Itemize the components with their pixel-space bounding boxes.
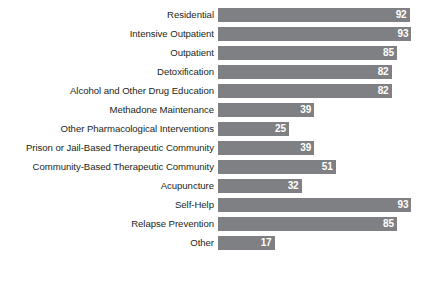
bar-value-label: 82	[378, 65, 389, 79]
chart-row: Alcohol and Other Drug Education82	[0, 84, 424, 103]
chart-row: Acupuncture32	[0, 179, 424, 198]
bar-track: 93	[218, 27, 424, 41]
bar-track: 39	[218, 103, 424, 117]
bar: 85	[218, 217, 397, 231]
chart-row: Community-Based Therapeutic Community51	[0, 160, 424, 179]
bar-value-label: 17	[261, 236, 272, 250]
bar-value-label: 82	[378, 84, 389, 98]
bar-category-label: Other	[190, 236, 214, 250]
bar-track: 17	[218, 236, 424, 250]
bar: 85	[218, 46, 397, 60]
bar-category-label: Other Pharmacological Interventions	[61, 122, 214, 136]
bar-track: 85	[218, 217, 424, 231]
bar-value-label: 39	[300, 141, 311, 155]
chart-row: Relapse Prevention85	[0, 217, 424, 236]
bar-track: 39	[218, 141, 424, 155]
bar-chart: Residential92Intensive Outpatient93Outpa…	[0, 0, 424, 284]
bar-category-label: Outpatient	[170, 46, 214, 60]
bar-category-label: Community-Based Therapeutic Community	[33, 160, 214, 174]
chart-row: Other Pharmacological Interventions25	[0, 122, 424, 141]
bar-track: 92	[218, 8, 424, 22]
chart-row: Detoxification82	[0, 65, 424, 84]
bar-track: 32	[218, 179, 424, 193]
bar-track: 82	[218, 84, 424, 98]
bar-value-label: 25	[275, 122, 286, 136]
bar-category-label: Residential	[167, 8, 214, 22]
cropped-title-text	[0, 0, 424, 4]
chart-row: Other17	[0, 236, 424, 255]
cropped-footer-text	[0, 276, 424, 284]
bar: 39	[218, 103, 314, 117]
bar: 93	[218, 27, 411, 41]
bar-category-label: Methadone Maintenance	[109, 103, 214, 117]
bar: 92	[218, 8, 410, 22]
bar-track: 82	[218, 65, 424, 79]
bar-category-label: Intensive Outpatient	[130, 27, 214, 41]
bar-track: 93	[218, 198, 424, 212]
chart-row: Residential92	[0, 8, 424, 27]
bar-category-label: Alcohol and Other Drug Education	[70, 84, 214, 98]
chart-row: Intensive Outpatient93	[0, 27, 424, 46]
chart-row: Self-Help93	[0, 198, 424, 217]
bar: 51	[218, 160, 336, 174]
bar-value-label: 85	[383, 217, 394, 231]
bar-value-label: 92	[396, 8, 407, 22]
bar: 39	[218, 141, 314, 155]
bar-value-label: 32	[288, 179, 299, 193]
bar: 93	[218, 198, 411, 212]
chart-row: Prison or Jail-Based Therapeutic Communi…	[0, 141, 424, 160]
bar: 32	[218, 179, 302, 193]
bar-track: 25	[218, 122, 424, 136]
bar-value-label: 51	[322, 160, 333, 174]
chart-row: Methadone Maintenance39	[0, 103, 424, 122]
bar: 82	[218, 65, 392, 79]
bar-category-label: Acupuncture	[161, 179, 214, 193]
bar-category-label: Prison or Jail-Based Therapeutic Communi…	[26, 141, 214, 155]
bar-track: 51	[218, 160, 424, 174]
bar-category-label: Detoxification	[157, 65, 214, 79]
bar-value-label: 93	[397, 198, 408, 212]
bar-track: 85	[218, 46, 424, 60]
chart-rows: Residential92Intensive Outpatient93Outpa…	[0, 8, 424, 255]
chart-row: Outpatient85	[0, 46, 424, 65]
bar-value-label: 39	[300, 103, 311, 117]
bar: 17	[218, 236, 275, 250]
bar-category-label: Relapse Prevention	[131, 217, 214, 231]
bar: 25	[218, 122, 289, 136]
bar-category-label: Self-Help	[175, 198, 214, 212]
bar-value-label: 85	[383, 46, 394, 60]
bar-value-label: 93	[397, 27, 408, 41]
bar: 82	[218, 84, 392, 98]
